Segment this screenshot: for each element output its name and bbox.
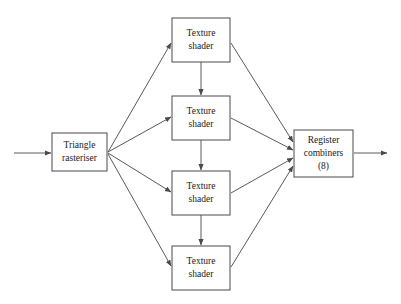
edge-shader-1-to-combiners [231, 43, 293, 142]
register-combiners-box-label-line-2: combiners [304, 148, 344, 158]
edge-rasteriser-to-shader-1 [108, 43, 171, 152]
texture-shader-box-4[interactable]: Textureshader [172, 246, 230, 290]
texture-shader-box-3-label-line-1: Texture [187, 181, 216, 191]
register-combiners-box-label-line-3: (8) [318, 161, 329, 172]
texture-shader-box-1-label-line-2: shader [189, 41, 215, 51]
texture-shader-box-3-label-line-2: shader [189, 194, 215, 204]
edge-rasteriser-to-shader-2 [108, 117, 171, 152]
texture-shader-box-2-label-line-2: shader [189, 119, 215, 129]
diagram-canvas: TrianglerasteriserTextureshaderTexturesh… [0, 0, 401, 304]
texture-shader-box-1[interactable]: Textureshader [172, 18, 230, 62]
block-diagram: TrianglerasteriserTextureshaderTexturesh… [0, 0, 401, 304]
edge-rasteriser-to-shader-3 [108, 153, 171, 192]
register-combiners-box[interactable]: Registercombiners(8) [294, 130, 353, 177]
triangle-rasteriser-box[interactable]: Trianglerasteriser [52, 133, 107, 171]
edge-shader-3-to-combiners [231, 158, 293, 193]
edge-rasteriser-to-shader-4 [108, 154, 171, 266]
texture-shader-box-4-label-line-2: shader [189, 269, 215, 279]
edge-shader-4-to-combiners [231, 166, 293, 267]
triangle-rasteriser-box-label-line-1: Triangle [64, 140, 96, 150]
nodes-layer: TrianglerasteriserTextureshaderTexturesh… [52, 18, 353, 290]
texture-shader-box-2[interactable]: Textureshader [172, 96, 230, 140]
texture-shader-box-3[interactable]: Textureshader [172, 171, 230, 215]
register-combiners-box-label-line-1: Register [308, 135, 340, 145]
triangle-rasteriser-box-label-line-2: rasteriser [62, 153, 98, 163]
texture-shader-box-4-label-line-1: Texture [187, 256, 216, 266]
texture-shader-box-2-label-line-1: Texture [187, 106, 216, 116]
edge-shader-2-to-combiners [231, 118, 293, 150]
texture-shader-box-1-label-line-1: Texture [187, 28, 216, 38]
